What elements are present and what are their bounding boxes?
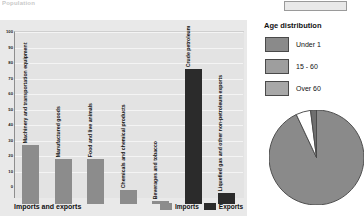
bar-category-label: Food and live animals — [88, 103, 93, 157]
y-tick-label-100: 100 — [6, 30, 13, 34]
bar-series-container: Machinery and transportation equipmentMa… — [15, 49, 243, 204]
legend-swatch-icon — [160, 203, 172, 210]
age-legend-label: 15 - 60 — [296, 63, 318, 70]
bar-category-label: Chemicals and chemical products — [121, 104, 126, 188]
age-legend-label: Over 60 — [296, 85, 321, 92]
age-distribution-legend: Under 115 - 60Over 60 — [265, 33, 347, 99]
page-caption: Population — [2, 0, 122, 10]
bar-category-label: Crude petroleum — [186, 26, 191, 68]
gridline-100 — [15, 32, 243, 33]
age-legend-swatch-icon — [265, 37, 289, 52]
bar-imports[interactable] — [55, 159, 72, 204]
age-legend-row[interactable]: 15 - 60 — [265, 55, 347, 77]
legend-label: Exports — [219, 203, 243, 210]
top-right-box — [284, 1, 347, 11]
bar-exports[interactable] — [185, 69, 202, 204]
y-tick-label-80: 80 — [8, 61, 13, 65]
age-legend-swatch-icon — [265, 59, 289, 74]
bar-category-label: Manufactured goods — [55, 106, 60, 157]
age-legend-label: Under 1 — [296, 41, 321, 48]
bar-imports[interactable] — [22, 145, 39, 204]
bar-group[interactable]: Crude petroleum — [185, 49, 202, 204]
y-tick-label-70: 70 — [8, 76, 13, 80]
bar-group[interactable]: Machinery and transportation equipment — [22, 49, 39, 204]
y-tick-label-50: 50 — [8, 107, 13, 111]
bar-group[interactable]: Beverages and tobacco — [152, 49, 169, 204]
pie-chart-wrapper — [269, 110, 364, 216]
bar-imports[interactable] — [87, 159, 104, 204]
bar-group[interactable]: Chemicals and chemical products — [120, 49, 137, 204]
bar-category-label: Beverages and tobacco — [153, 141, 158, 199]
legend-item-exports[interactable]: Exports — [204, 203, 243, 210]
y-tick-label-40: 40 — [8, 123, 13, 127]
right-panel: Age distribution Under 115 - 60Over 60 — [247, 0, 347, 216]
age-distribution-pie-chart — [269, 110, 364, 205]
y-tick-label-20: 20 — [8, 154, 13, 158]
bar-category-label: Liquefied gas and other non-petroleum ex… — [218, 75, 223, 191]
bar-group[interactable]: Food and live animals — [87, 49, 104, 204]
age-distribution-title: Age distribution — [264, 21, 322, 30]
age-legend-row[interactable]: Under 1 — [265, 33, 347, 55]
y-tick-label-10: 10 — [8, 169, 13, 173]
bar-group[interactable]: Manufactured goods — [55, 49, 72, 204]
chart-title: Imports and exports — [14, 203, 81, 210]
bar-category-label: Machinery and transportation equipment — [23, 43, 28, 144]
legend-swatch-icon — [204, 203, 216, 210]
y-tick-label-0: 0 — [11, 185, 13, 189]
age-legend-row[interactable]: Over 60 — [265, 77, 347, 99]
y-tick-label-60: 60 — [8, 92, 13, 96]
y-tick-label-90: 90 — [8, 45, 13, 49]
bar-group[interactable]: Liquefied gas and other non-petroleum ex… — [218, 49, 235, 204]
legend-item-imports[interactable]: Imports — [160, 203, 199, 210]
chart-footer: Imports and exports ImportsExports — [0, 200, 247, 216]
chart-legend: ImportsExports — [160, 203, 243, 210]
y-tick-label-30: 30 — [8, 138, 13, 142]
legend-label: Imports — [175, 203, 199, 210]
bar-chart-panel: 0102030405060708090100 Machinery and tra… — [0, 20, 247, 216]
age-legend-swatch-icon — [265, 81, 289, 96]
y-axis: 0102030405060708090100 — [0, 32, 14, 187]
